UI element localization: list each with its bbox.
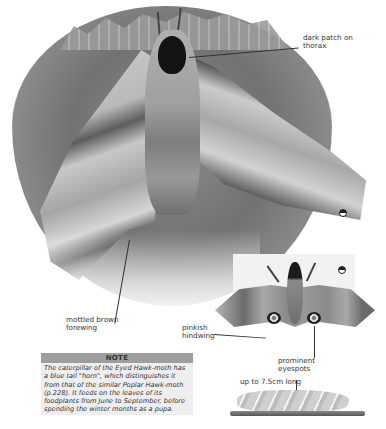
female-icon [339,209,347,217]
eyespots-leader-line [314,326,315,358]
caterpillar-illustration [237,390,349,412]
note-box: NOTE The caterpillar of the Eyed Hawk-mo… [41,353,193,415]
thorax-label: dark patch on thorax [303,34,373,50]
forewing-label: mottled brown forewing [66,316,126,332]
inset-moth-body [287,262,303,324]
twig [230,411,365,416]
moth-thorax-patch [158,36,186,74]
eyespot-right-icon [307,312,321,324]
female-icon-inset [338,266,346,274]
eyespots-label: prominent eyespots [278,357,326,373]
note-title: NOTE [41,353,193,363]
note-text: The caterpillar of the Eyed Hawk-moth ha… [41,363,193,416]
caterpillar-size-label: up to 7.5cm long [240,378,330,386]
eyespot-left-icon [267,312,281,324]
hindwing-label: pinkish hindwing [182,324,227,340]
